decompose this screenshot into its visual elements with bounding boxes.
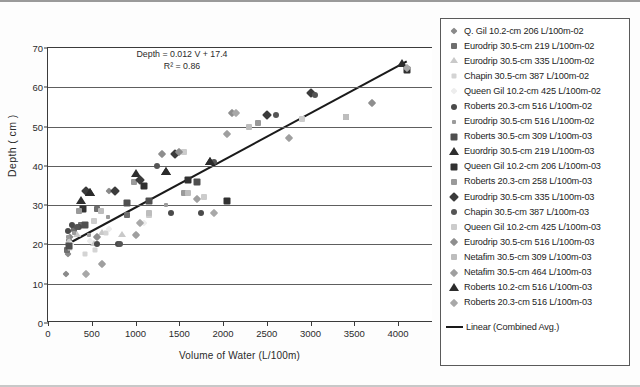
data-point	[193, 178, 200, 185]
legend-marker-icon	[446, 130, 462, 143]
legend-marker-icon	[446, 24, 462, 37]
legend-entry-label: Eurodrip 30.5-cm 335 L/100m-02	[464, 56, 594, 66]
legend-entry: Eurodrip 30.5-cm 335 L/100m-02	[444, 53, 626, 68]
legend-marker-icon	[446, 250, 462, 263]
legend-entry-label: Netafim 30.5-cm 464 L/100m-03	[464, 267, 591, 277]
legend-marker-icon	[446, 235, 462, 248]
regression-annotation: Depth = 0.012 V + 17.4 R² = 0.86	[107, 48, 257, 72]
legend-entry: Roberts 20.3-cm 516 L/100m-03	[444, 295, 626, 310]
data-point	[76, 196, 86, 204]
legend-entry: Roberts 10.2-cm 516 L/100m-03	[444, 280, 626, 295]
x-tick-mark	[223, 321, 224, 326]
legend-marker-icon	[446, 39, 462, 52]
gridline	[48, 127, 432, 128]
data-point	[145, 198, 152, 205]
data-point	[146, 210, 152, 216]
data-point	[74, 224, 80, 230]
legend-entry: Eurodrip 30.5-cm 335 L/100m-03	[444, 189, 626, 204]
legend-marker-icon	[446, 84, 462, 97]
x-tick-label: 500	[84, 328, 100, 339]
legend-entry: Queen Gil 10.2-cm 206 L/100m-03	[444, 159, 626, 174]
data-point	[82, 252, 87, 257]
data-point	[198, 210, 204, 216]
legend-entry-label: Roberts 20.3-cm 516 L/100m-02	[464, 101, 592, 111]
legend-entry: Queen Gil 10.2-cm 425 L/100m-02	[444, 83, 626, 98]
data-point	[273, 112, 279, 118]
legend-marker-icon	[446, 54, 462, 67]
legend-entry-label: Eurodrip 30.5-cm 516 L/100m-03	[464, 237, 594, 247]
legend-marker-icon	[446, 145, 462, 158]
data-point	[312, 92, 318, 98]
y-axis-title: Depth ( cm )	[6, 114, 18, 177]
trendline-swatch-icon	[446, 326, 463, 328]
x-tick-label: 1500	[169, 328, 190, 339]
legend-entry: Euordrip 30.5-cm 219 L/100m-03	[444, 144, 626, 159]
legend-entry: Netafim 30.5-cm 309 L/100m-03	[444, 249, 626, 264]
data-point	[224, 198, 231, 205]
data-point	[185, 190, 191, 196]
legend-entry-label: Q. Gil 10.2-cm 206 L/100m-02	[464, 26, 583, 36]
data-point	[124, 212, 130, 218]
gridline	[48, 284, 432, 285]
chart-figure: Depth ( cm ) 010203040506070050010001500…	[0, 0, 640, 387]
legend-entry-label: Euordrip 30.5-cm 219 L/100m-03	[464, 146, 594, 156]
x-tick-label: 1000	[125, 328, 146, 339]
legend-entry-label: Queen Gil 10.2-cm 425 L/100m-03	[464, 222, 601, 232]
legend-entry: Chapin 30.5-cm 387 L/100m-03	[444, 204, 626, 219]
legend-entry-label: Roberts 20.3-cm 258 L/100m-03	[464, 176, 592, 186]
legend-marker-icon	[446, 69, 462, 82]
gridline	[48, 205, 432, 206]
chart-legend: Q. Gil 10.2-cm 206 L/100m-02Eurodrip 30.…	[440, 18, 630, 366]
legend-entry-label: Eurodrip 30.5-cm 516 L/100m-02	[464, 116, 594, 126]
plot-canvas	[48, 48, 432, 321]
legend-marker-icon	[446, 100, 462, 113]
legend-entry: Eurodrip 30.5-cm 516 L/100m-03	[444, 234, 626, 249]
legend-entry-label: Netafim 30.5-cm 309 L/100m-03	[464, 252, 591, 262]
data-point	[106, 215, 110, 219]
x-tick-label: 0	[45, 328, 50, 339]
legend-entry-label: Chapin 30.5-cm 387 L/100m-03	[464, 207, 589, 217]
y-tick-label: 50	[32, 121, 48, 132]
gridline	[48, 244, 432, 245]
legend-entry: Queen Gil 10.2-cm 425 L/100m-03	[444, 219, 626, 234]
x-tick-mark	[267, 321, 268, 326]
legend-entry-label: Eurodrip 30.5-cm 219 L/100m-02	[464, 41, 594, 51]
data-point	[94, 241, 100, 247]
legend-marker-icon	[446, 296, 462, 309]
data-point	[117, 241, 123, 247]
legend-entry: Roberts 20.3-cm 258 L/100m-03	[444, 174, 626, 189]
plot-area: 0102030405060700500100015002000250030003…	[47, 47, 432, 322]
legend-marker-icon	[446, 190, 462, 203]
y-tick-label: 40	[32, 160, 48, 171]
x-tick-label: 2000	[212, 328, 233, 339]
x-tick-mark	[354, 321, 355, 326]
trendline	[48, 48, 432, 321]
regression-r2: R² = 0.86	[107, 60, 257, 72]
data-point	[185, 176, 192, 183]
x-tick-mark	[48, 321, 49, 326]
data-point	[154, 163, 160, 169]
data-point	[76, 208, 82, 214]
data-point	[161, 167, 171, 175]
data-point	[91, 218, 97, 224]
legend-entry: Roberts 20.3-cm 516 L/100m-02	[444, 98, 626, 113]
legend-marker-icon	[446, 175, 462, 188]
legend-entry: Eurodrip 30.5-cm 516 L/100m-02	[444, 114, 626, 129]
data-point	[85, 188, 95, 196]
data-point	[66, 243, 73, 250]
legend-entry: Q. Gil 10.2-cm 206 L/100m-02	[444, 23, 626, 38]
x-tick-label: 3000	[300, 328, 321, 339]
legend-entry: Chapin 30.5-cm 387 L/100m-02	[444, 68, 626, 83]
x-tick-mark	[92, 321, 93, 326]
data-point	[343, 114, 349, 120]
legend-entry-label: Roberts 10.2-cm 516 L/100m-03	[464, 282, 592, 292]
x-tick-mark	[179, 321, 180, 326]
legend-marker-icon	[446, 220, 462, 233]
legend-entry-label: Roberts 30.5-cm 309 L/100m-03	[464, 131, 592, 141]
data-point	[66, 235, 70, 239]
x-tick-mark	[398, 321, 399, 326]
legend-entry-label: Chapin 30.5-cm 387 L/100m-02	[464, 71, 589, 81]
x-tick-label: 2500	[256, 328, 277, 339]
data-point	[205, 157, 215, 165]
data-point	[246, 124, 252, 130]
